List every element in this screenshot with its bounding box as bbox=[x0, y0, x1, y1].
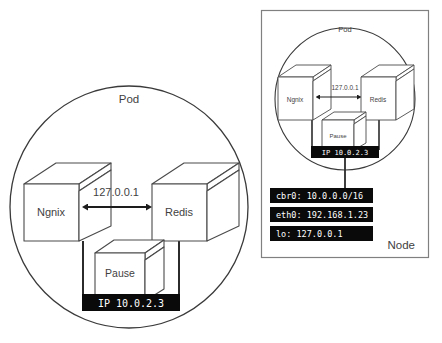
node-interface-cbr0: cbr0: 10.0.0.0/16 bbox=[270, 188, 373, 203]
pod-label: Pod bbox=[119, 93, 139, 105]
ngnix-label: Ngnix bbox=[37, 206, 66, 218]
node-pod-label: Pod bbox=[338, 25, 351, 34]
node-pod-ip-label: IP 10.0.2.3 bbox=[322, 149, 368, 157]
node-pause-label: Pause bbox=[329, 133, 347, 139]
node-container-cube-pause[interactable]: Pause bbox=[322, 112, 366, 150]
pod-networking-diagram: Pod Ngnix Redis 127.0.0.1 bbox=[0, 0, 442, 343]
node-label: Node bbox=[388, 239, 416, 251]
container-cube-pause[interactable]: Pause bbox=[95, 240, 164, 301]
cbr0-label: cbr0: 10.0.0.0/16 bbox=[276, 191, 363, 201]
redis-label: Redis bbox=[165, 206, 194, 218]
loopback-label: 127.0.0.1 bbox=[93, 186, 139, 198]
node-interface-eth0: eth0: 192.168.1.23 bbox=[270, 207, 373, 222]
left-pod-group: Pod Ngnix Redis 127.0.0.1 bbox=[10, 86, 248, 328]
node-ngnix-label: Ngnix bbox=[287, 96, 304, 104]
node-interface-lo: lo: 127.0.0.1 bbox=[270, 226, 373, 241]
eth0-label: eth0: 192.168.1.23 bbox=[276, 210, 368, 220]
node-container-cube-redis[interactable]: Redis bbox=[361, 65, 414, 120]
pod-ip-label: IP 10.0.2.3 bbox=[98, 298, 164, 309]
node-redis-label: Redis bbox=[370, 96, 387, 103]
node-pod-ip-bar: IP 10.0.2.3 bbox=[311, 146, 379, 158]
node-loopback-label: 127.0.0.1 bbox=[331, 84, 358, 91]
right-node-group: Node Pod Ngnix Redis 127.0.0.1 bbox=[262, 11, 429, 258]
node-container-cube-ngnix[interactable]: Ngnix bbox=[278, 65, 331, 120]
lo-label: lo: 127.0.0.1 bbox=[276, 229, 343, 239]
pause-label: Pause bbox=[105, 267, 135, 279]
pod-ip-bar: IP 10.0.2.3 bbox=[82, 294, 180, 311]
container-cube-redis[interactable]: Redis bbox=[152, 163, 239, 241]
container-cube-ngnix[interactable]: Ngnix bbox=[24, 163, 111, 241]
